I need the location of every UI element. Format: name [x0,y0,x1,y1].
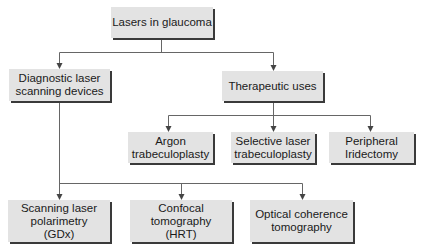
root-node-label: Lasers in glaucoma [112,16,212,29]
gdx-node-label: Scanning laser polarimetry (GDx) [21,202,97,241]
oct-node: Optical coherence tomography [250,200,353,242]
diagnostic-node: Diagnostic laser scanning devices [9,69,110,101]
argon-node: Argon trabeculoplasty [128,132,213,163]
diagnostic-node-label: Diagnostic laser scanning devices [15,72,103,98]
peripheral-node: Peripheral Iridectomy [329,132,414,163]
hrt-node-label: Confocal tomography (HRT) [151,202,212,241]
selective-node-label: Selective laser trabeculoplasty [234,135,311,161]
gdx-node: Scanning laser polarimetry (GDx) [8,200,110,242]
therapeutic-node: Therapeutic uses [222,71,323,101]
hrt-node: Confocal tomography (HRT) [130,200,232,242]
peripheral-node-label: Peripheral Iridectomy [345,135,398,161]
selective-node: Selective laser trabeculoplasty [231,132,315,163]
argon-node-label: Argon trabeculoplasty [132,135,209,161]
oct-node-label: Optical coherence tomography [255,208,348,234]
therapeutic-node-label: Therapeutic uses [228,80,316,93]
root-node: Lasers in glaucoma [111,7,213,38]
